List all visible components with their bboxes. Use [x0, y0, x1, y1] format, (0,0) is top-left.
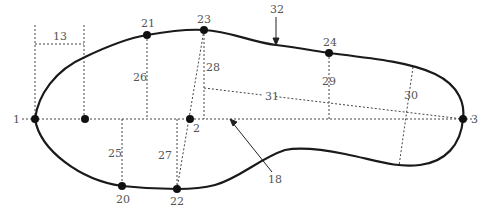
label-29: 29: [322, 75, 336, 88]
label-point-1: 1: [13, 113, 20, 126]
label-point-3: 3: [471, 113, 478, 126]
diagram-canvas: 1 2 3 20 21 22 23 24 13 25 26 27 28 29 3…: [0, 0, 489, 217]
point-22: [173, 185, 181, 193]
measure-30: [399, 67, 413, 166]
point-20: [118, 182, 126, 190]
point-labels: 1 2 3 20 21 22 23 24: [13, 13, 478, 208]
point-23: [200, 26, 208, 34]
point-1: [31, 115, 39, 123]
label-point-21: 21: [141, 17, 155, 30]
line-23-22: [177, 30, 204, 189]
label-27: 27: [158, 149, 172, 162]
label-point-24: 24: [323, 36, 337, 49]
point-21: [143, 31, 151, 39]
point-3: [459, 115, 467, 123]
label-18: 18: [268, 173, 282, 186]
label-13: 13: [53, 30, 67, 43]
label-point-2: 2: [193, 122, 200, 135]
label-28: 28: [206, 61, 220, 74]
label-point-23: 23: [197, 13, 211, 26]
construction-lines: [22, 25, 475, 189]
last-outline: [35, 30, 463, 189]
label-30: 30: [404, 89, 418, 102]
label-point-22: 22: [170, 195, 184, 208]
label-point-20: 20: [116, 193, 130, 206]
point-unlabeled: [81, 115, 89, 123]
label-26: 26: [133, 71, 147, 84]
arrow-18-head: [230, 119, 237, 126]
arrow-18-shaft: [232, 122, 272, 172]
label-32: 32: [270, 3, 284, 16]
label-25: 25: [108, 147, 122, 160]
label-31: 31: [265, 90, 279, 103]
point-24: [325, 49, 333, 57]
measure-31: [204, 88, 463, 119]
